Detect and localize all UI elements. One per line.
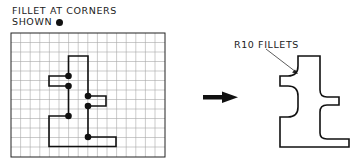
fillet-label: R10 FILLETS [234,39,299,50]
arrow-right-icon [203,92,238,104]
fillet-diagram [0,0,356,163]
filleted-shape [280,56,349,147]
leader-line [266,49,296,72]
